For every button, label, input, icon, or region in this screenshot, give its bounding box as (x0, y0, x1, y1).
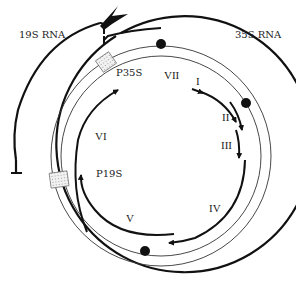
genome-map: 19S RNA 35S RNA P35S P19S VII I II III I… (0, 0, 296, 291)
orf-v-arrow (81, 175, 174, 235)
label-p35s: P35S (116, 67, 142, 78)
label-p19s: P19S (96, 168, 122, 179)
label-orf-vii: VII (164, 69, 180, 81)
label-orf-iii: III (221, 139, 232, 151)
label-35s-rna: 35S RNA (235, 29, 282, 40)
label-orf-ii: II (222, 111, 230, 123)
label-orf-vi: VI (95, 130, 107, 142)
orf-i-arrow (201, 92, 236, 122)
promoter-35s-box (95, 52, 116, 73)
label-19s-rna: 19S RNA (19, 29, 66, 40)
orf-iv-arrow (169, 160, 245, 243)
orf-iii-arrow (236, 130, 239, 158)
gap-dot-bottom (140, 246, 150, 256)
label-orf-iv: IV (209, 202, 221, 214)
promoter-19s-box (49, 171, 69, 188)
dna-inner-strand (61, 56, 261, 256)
gap-dot-right (241, 98, 251, 108)
flag-arrow-icon (100, 6, 128, 30)
label-orf-i: I (196, 75, 200, 87)
dna-outer-strand (51, 46, 271, 266)
gap-dot-top (156, 39, 166, 49)
label-orf-v: V (126, 212, 134, 224)
